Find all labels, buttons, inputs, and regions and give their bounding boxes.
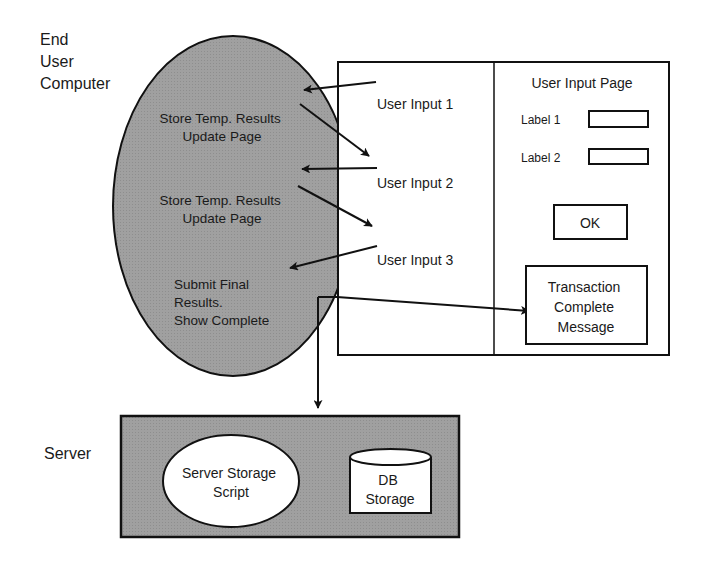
- user-input-2-label: User Input 2: [377, 175, 453, 191]
- transaction-complete-message: Transaction Complete Message: [548, 279, 625, 335]
- end-user-computer-label: End User Computer: [40, 31, 111, 92]
- web-transaction-flow-diagram: End User Computer Store Temp. Results Up…: [0, 0, 702, 571]
- arrow-input2-to-client: [302, 168, 377, 169]
- ok-button[interactable]: OK: [554, 205, 627, 239]
- ok-button-label: OK: [580, 215, 601, 231]
- label-1: Label 1: [521, 113, 561, 127]
- label-1-input[interactable]: [589, 111, 648, 127]
- server-label: Server: [44, 445, 92, 462]
- label-2: Label 2: [521, 151, 561, 165]
- user-input-3-label: User Input 3: [377, 252, 453, 268]
- user-input-page-title: User Input Page: [531, 75, 632, 91]
- user-input-1-label: User Input 1: [377, 96, 453, 112]
- label-2-input[interactable]: [589, 149, 648, 164]
- server-storage-script-ellipse: [163, 435, 299, 527]
